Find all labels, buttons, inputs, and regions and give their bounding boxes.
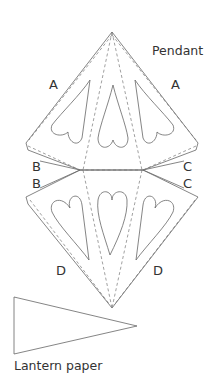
- heart-cutout: [98, 192, 127, 255]
- bottom-outline: [26, 170, 198, 308]
- label-d-left: D: [56, 264, 66, 277]
- label-d-right: D: [153, 264, 163, 277]
- label-b-lower: B: [32, 177, 41, 190]
- label-a-right: A: [171, 78, 180, 91]
- heart-cutout: [136, 196, 174, 260]
- label-a-left: A: [49, 78, 58, 91]
- heart-cutout: [98, 85, 128, 147]
- lantern-paper-triangle: [14, 297, 137, 354]
- label-c-lower: C: [183, 177, 192, 190]
- flap-b: [40, 161, 80, 188]
- label-c-upper: C: [183, 160, 192, 173]
- pendant-title: Pendant: [152, 45, 203, 58]
- lantern-paper-title: Lantern paper: [14, 360, 102, 373]
- heart-cutout: [51, 196, 89, 260]
- heart-cutout: [135, 80, 174, 143]
- label-b-upper: B: [32, 160, 41, 173]
- flap-c: [143, 161, 184, 188]
